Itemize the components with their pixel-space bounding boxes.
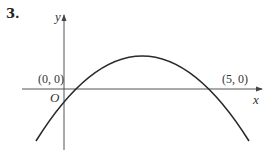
point-label-root: (5, 0) xyxy=(222,72,248,86)
parabola-curve xyxy=(36,56,249,141)
x-axis-label: x xyxy=(252,92,259,107)
y-axis-label: y xyxy=(53,9,61,24)
parabola-diagram: y x O (0, 0) (5, 0) xyxy=(0,0,271,160)
origin-label: O xyxy=(50,90,60,105)
point-label-origin: (0, 0) xyxy=(38,72,64,86)
